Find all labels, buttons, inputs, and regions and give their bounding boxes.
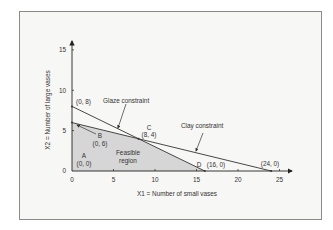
point-b-label: B [98,132,102,139]
x-tick-label: 0 [70,176,74,183]
point-d-label: D [197,161,202,168]
glaze-constraint-label: Glaze constraint [103,97,149,104]
x-tick-label: 15 [193,176,201,183]
lp-chart: 0 5 10 15 20 25 0 5 10 15 X1 = Number of… [0,0,333,230]
clay-constraint-label: Clay constraint [181,122,223,130]
point-label-24-0: (24, 0) [261,160,279,168]
y-tick-label: 10 [59,87,67,94]
point-a-coord: (0, 0) [77,160,92,168]
clay-pointer-arrow [196,133,203,151]
x-tick-label: 20 [234,176,242,183]
point-b-coord: (0, 6) [93,140,108,148]
y-axis-title: X2 = Number of large vases [44,70,52,149]
feasible-region-label: region [119,157,137,165]
x-tick-label: 10 [151,176,159,183]
x-axis-title: X1 = Number of small vases [137,190,217,197]
y-tick-label: 5 [62,127,66,134]
feasible-region-label: Feasible [116,149,141,156]
point-a-label: A [82,152,87,159]
y-tick-label: 15 [59,46,67,53]
point-c-label: C [147,124,152,131]
x-tick-label: 25 [276,176,284,183]
point-c-coord: (8, 4) [142,131,157,139]
point-d-coord: (16, 0) [207,161,225,169]
y-tick-label: 0 [62,167,66,174]
point-label-0-8: (0, 8) [76,98,91,106]
x-tick-label: 5 [112,176,116,183]
glaze-pointer-arrow [118,104,126,128]
